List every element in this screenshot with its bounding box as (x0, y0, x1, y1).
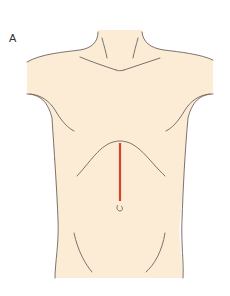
torso-illustration (0, 0, 230, 296)
